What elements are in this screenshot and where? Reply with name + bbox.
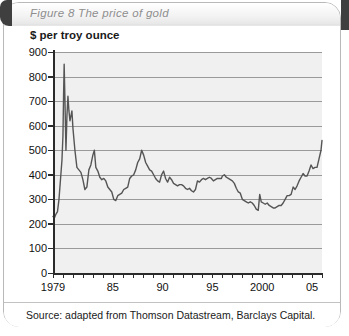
y-tick-mark-100 [48, 248, 53, 250]
y-tick-mark-800 [48, 76, 53, 78]
y-axis-line [53, 50, 55, 275]
x-tick-mark-1998 [242, 273, 243, 278]
y-tick-mark-300 [48, 199, 53, 201]
y-tick-mark-900 [48, 52, 53, 54]
figure-footer: Source: adapted from Thomson Datastream,… [4, 303, 340, 327]
x-tick-label-1979: 1979 [41, 281, 65, 293]
y-tick-mark-600 [48, 125, 53, 127]
chart-body: $ per troy ounce 01002003004005006007008… [4, 26, 340, 302]
y-tick-label-800: 800 [7, 71, 47, 83]
x-tick-mark-1988 [143, 273, 144, 278]
x-tick-mark-2002 [282, 273, 283, 278]
y-tick-label-100: 100 [7, 242, 47, 254]
x-tick-mark-1997 [232, 273, 233, 278]
x-tick-mark-1983 [93, 273, 94, 278]
x-tick-mark-1986 [123, 273, 124, 278]
y-tick-mark-200 [48, 223, 53, 225]
y-tick-mark-700 [48, 101, 53, 103]
x-tick-mark-1993 [192, 273, 193, 278]
x-tick-mark-1985 [113, 273, 114, 278]
x-tick-label-2000: 2000 [250, 281, 274, 293]
x-tick-mark-1995 [212, 273, 213, 278]
figure-panel: Figure 8 The price of gold $ per troy ou… [0, 0, 349, 336]
plot-area [53, 52, 322, 273]
x-tick-mark-1982 [83, 273, 84, 278]
y-tick-label-500: 500 [7, 144, 47, 156]
y-axis-unit-label: $ per troy ounce [30, 29, 119, 41]
figure-title: Figure 8 The price of gold [30, 7, 169, 19]
x-tick-mark-1979 [53, 273, 54, 278]
y-tick-mark-500 [48, 150, 53, 152]
gold-price-polyline [53, 64, 322, 217]
source-note: Source: adapted from Thomson Datastream,… [26, 309, 315, 321]
y-tick-label-400: 400 [7, 169, 47, 181]
x-tick-label-1995: 95 [206, 281, 218, 293]
x-tick-mark-2001 [272, 273, 273, 278]
y-tick-label-300: 300 [7, 193, 47, 205]
x-tick-mark-1984 [103, 273, 104, 278]
y-tick-label-900: 900 [7, 46, 47, 58]
x-tick-mark-1990 [163, 273, 164, 278]
x-tick-mark-2003 [292, 273, 293, 278]
x-tick-label-1990: 90 [156, 281, 168, 293]
x-tick-mark-1996 [222, 273, 223, 278]
x-tick-mark-2004 [302, 273, 303, 278]
figure-title-bar: Figure 8 The price of gold [4, 3, 340, 25]
x-tick-mark-1994 [202, 273, 203, 278]
x-tick-label-1985: 85 [107, 281, 119, 293]
x-tick-mark-1999 [252, 273, 253, 278]
x-tick-mark-1987 [133, 273, 134, 278]
y-tick-label-700: 700 [7, 95, 47, 107]
x-tick-mark-1989 [153, 273, 154, 278]
y-tick-mark-400 [48, 174, 53, 176]
x-tick-mark-2000 [262, 273, 263, 278]
x-tick-label-2005: 05 [306, 281, 318, 293]
x-tick-mark-2005 [312, 273, 313, 278]
gold-price-line [53, 52, 322, 273]
x-tick-mark-2006 [322, 273, 323, 278]
y-tick-label-200: 200 [7, 218, 47, 230]
x-tick-mark-1981 [73, 273, 74, 278]
y-tick-label-600: 600 [7, 120, 47, 132]
x-tick-mark-1980 [63, 273, 64, 278]
x-tick-mark-1991 [173, 273, 174, 278]
y-tick-label-0: 0 [7, 267, 47, 279]
left-tab-marker [0, 0, 12, 26]
x-tick-mark-1992 [183, 273, 184, 278]
right-edge-marker [341, 0, 349, 30]
